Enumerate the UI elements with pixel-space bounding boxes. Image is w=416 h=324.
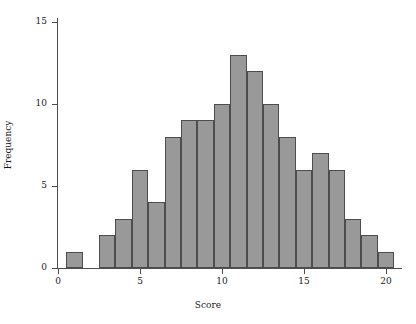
x-tick-label: 0: [43, 277, 73, 286]
histogram-bar: [230, 55, 246, 268]
x-tick-mark: [222, 269, 223, 274]
histogram-bar: [181, 120, 197, 268]
histogram-bar: [214, 104, 230, 268]
histogram-bar: [296, 170, 312, 268]
histogram-bar: [279, 137, 295, 268]
histogram-bar: [99, 235, 115, 268]
histogram-bar: [115, 219, 131, 268]
histogram-bar: [312, 153, 328, 268]
x-tick-mark: [386, 269, 387, 274]
x-tick-mark: [140, 269, 141, 274]
histogram-chart: 051015 05101520 Score Frequency: [0, 0, 416, 324]
x-tick-mark: [58, 269, 59, 274]
y-axis-label: Frequency: [3, 105, 13, 185]
histogram-bar: [361, 235, 377, 268]
histogram-bar: [148, 202, 164, 268]
histogram-bar: [247, 71, 263, 268]
x-tick-label: 15: [289, 277, 319, 286]
histogram-bar: [66, 252, 82, 268]
y-axis-line: [57, 18, 58, 269]
y-tick-mark: [52, 104, 57, 105]
histogram-bar: [132, 170, 148, 268]
y-tick-label: 15: [0, 17, 47, 26]
histogram-bar: [378, 252, 394, 268]
x-axis-label: Score: [0, 300, 416, 310]
y-tick-mark: [52, 22, 57, 23]
y-tick-label: 0: [0, 263, 47, 272]
x-tick-label: 10: [207, 277, 237, 286]
y-tick-mark: [52, 268, 57, 269]
x-tick-label: 5: [125, 277, 155, 286]
histogram-bar: [345, 219, 361, 268]
y-tick-mark: [52, 186, 57, 187]
histogram-bar: [165, 137, 181, 268]
x-tick-mark: [304, 269, 305, 274]
histogram-bar: [329, 170, 345, 268]
x-axis-line: [57, 268, 402, 269]
histogram-bar: [263, 104, 279, 268]
x-tick-label: 20: [371, 277, 401, 286]
histogram-bar: [197, 120, 213, 268]
